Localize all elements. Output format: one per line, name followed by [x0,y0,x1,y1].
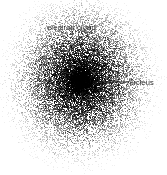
atom-diagram-figure: electron cloud nucleus [0,0,167,175]
electron-cloud-scatter-canvas [0,0,167,175]
